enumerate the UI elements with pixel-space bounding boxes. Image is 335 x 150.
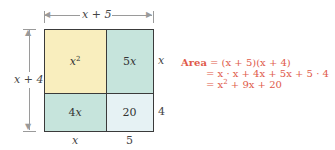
equation-line-1: Area = (x + 5)(x + 4) bbox=[181, 57, 291, 68]
arrow-left-icon: ◀ bbox=[44, 10, 50, 20]
equation-line-3: = x2 + 9x + 20 bbox=[206, 79, 282, 90]
left-dimension-label: x + 4 bbox=[14, 73, 43, 86]
right-label-4-text: 4 bbox=[158, 105, 165, 118]
arrow-up-icon: ▲ bbox=[25, 29, 31, 37]
arrow-down-icon: ▼ bbox=[25, 123, 31, 131]
top-dimension-line-left bbox=[45, 15, 80, 16]
equation-area-label: Area bbox=[181, 57, 207, 68]
horizontal-divider bbox=[44, 93, 154, 95]
bottom-label-x-text: x bbox=[72, 134, 78, 147]
right-label-4: 4 bbox=[158, 105, 165, 118]
equation-line-1-text: = (x + 5)(x + 4) bbox=[210, 57, 291, 68]
left-dimension-bottom-tick bbox=[23, 131, 36, 132]
top-dimension-right-tick bbox=[153, 11, 154, 23]
bottom-label-5: 5 bbox=[126, 134, 133, 147]
top-dimension-text: x + 5 bbox=[82, 8, 111, 21]
arrow-right-icon: ▶ bbox=[146, 10, 152, 20]
left-dimension-text: x + 4 bbox=[14, 73, 43, 86]
top-dimension-label: x + 5 bbox=[82, 8, 111, 21]
equation-line-3-suffix: + 9x + 20 bbox=[228, 79, 282, 90]
bottom-label-5-text: 5 bbox=[126, 134, 133, 147]
right-label-x: x bbox=[158, 54, 164, 67]
bottom-label-x: x bbox=[72, 134, 78, 147]
right-label-x-text: x bbox=[158, 54, 164, 67]
equation-line-3-prefix: = x bbox=[206, 79, 223, 90]
vertical-divider bbox=[106, 29, 108, 132]
outer-rectangle bbox=[44, 29, 154, 132]
equation-line-3-exp: 2 bbox=[223, 78, 227, 86]
